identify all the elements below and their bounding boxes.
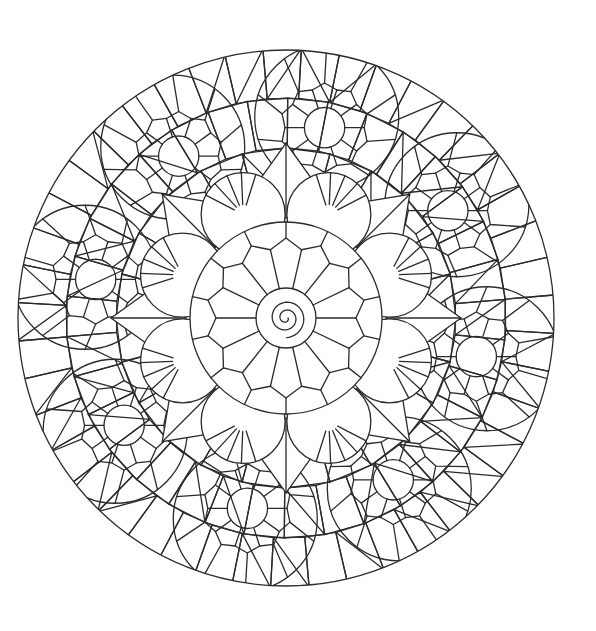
mandala-artwork [0,0,596,631]
mandala-svg [0,0,596,631]
central-flower [190,222,382,414]
